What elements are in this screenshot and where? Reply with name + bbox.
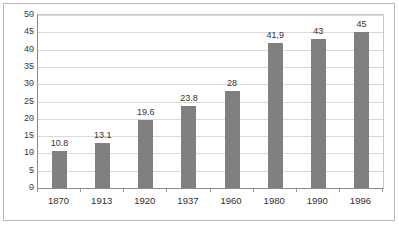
bar[interactable] [268,43,283,188]
x-axis-tick-mark [80,189,81,192]
bar-chart-figure: 05101520253035404550 10.813.119.623.8284… [0,0,399,225]
bar[interactable] [311,39,326,188]
y-axis-tick-label: 40 [4,45,34,54]
bar-value-label: 41,9 [253,30,297,40]
y-axis-tick-mark [31,118,34,119]
x-axis-tick-mark [166,189,167,192]
x-axis-tick-mark [339,189,340,192]
y-axis-tick-mark [31,152,34,153]
x-axis-tick-mark [37,189,38,192]
y-axis-tick-mark [31,49,34,50]
x-axis-tick-label: 1870 [37,195,81,206]
x-axis-tick-mark [296,189,297,192]
x-axis-ticks [37,189,384,193]
gridline [38,171,383,172]
y-axis-tick-label: 30 [4,79,34,88]
bar-value-label: 19.6 [124,107,168,117]
bar[interactable] [181,106,196,188]
x-axis-tick-label: 1996 [338,195,382,206]
y-axis-tick-label: 35 [4,62,34,71]
bar[interactable] [225,91,240,188]
gridline [38,15,383,16]
x-axis-tick-mark [210,189,211,192]
bar-value-label: 13.1 [81,130,125,140]
x-axis-tick-mark [123,189,124,192]
bar-value-label: 28 [210,78,254,88]
x-axis-tick-mark [382,189,383,192]
x-axis-labels: 18701913192019371960198019901996 [37,195,384,209]
y-axis-tick-mark [31,14,34,15]
x-axis-tick-label: 1937 [166,195,210,206]
gridline [38,119,383,120]
bar-value-label: 23.8 [167,93,211,103]
y-axis-tick-mark [31,83,34,84]
y-axis-tick-mark [31,66,34,67]
bar[interactable] [95,143,110,188]
y-axis-tick-label: 10 [4,148,34,157]
x-axis-tick-label: 1920 [123,195,167,206]
bar[interactable] [52,151,67,188]
x-axis-tick-mark [253,189,254,192]
y-axis-tick-mark [31,170,34,171]
x-axis-tick-label: 1913 [80,195,124,206]
gridline [38,153,383,154]
y-axis-tick-label: 45 [4,27,34,36]
y-axis: 05101520253035404550 [0,14,34,189]
y-axis-tick-mark [31,187,34,188]
gridline [38,50,383,51]
y-axis-tick-label: 25 [4,97,34,106]
y-axis-tick-label: 5 [4,166,34,175]
y-axis-tick-mark [31,135,34,136]
gridline [38,67,383,68]
y-axis-tick-label: 50 [4,10,34,19]
plot-area: 10.813.119.623.82841,94345 [37,14,384,189]
y-axis-tick-label: 0 [4,183,34,192]
bar-value-label: 10.8 [38,138,82,148]
y-axis-tick-label: 15 [4,131,34,140]
x-axis-tick-label: 1990 [295,195,339,206]
bar[interactable] [354,32,369,188]
y-axis-tick-mark [31,31,34,32]
bar-value-label: 45 [339,19,383,29]
y-axis-tick-mark [31,101,34,102]
bar-value-label: 43 [296,26,340,36]
x-axis-tick-label: 1980 [252,195,296,206]
bar[interactable] [138,120,153,188]
x-axis-tick-label: 1960 [209,195,253,206]
y-axis-tick-label: 20 [4,114,34,123]
